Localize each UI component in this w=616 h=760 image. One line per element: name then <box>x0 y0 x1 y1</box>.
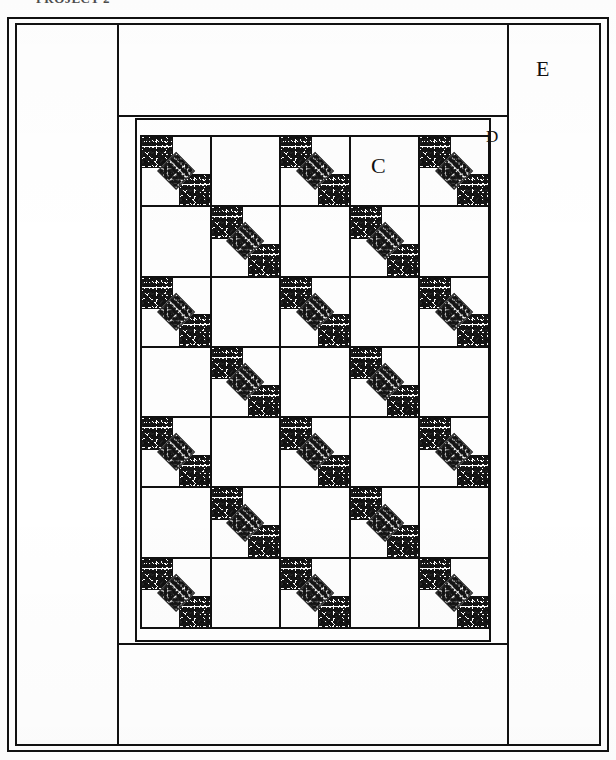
label-e: E <box>536 58 549 80</box>
plain-block <box>420 348 488 416</box>
plain-block <box>281 207 349 275</box>
pieced-block <box>281 559 349 627</box>
plain-block <box>420 488 488 556</box>
plain-block <box>212 418 280 486</box>
quilt-block-grid <box>140 135 490 629</box>
label-c: C <box>371 155 386 177</box>
pieced-block <box>281 418 349 486</box>
pieced-block <box>281 278 349 346</box>
figure-caption: PROJECT 2 <box>36 0 276 5</box>
pieced-block <box>281 137 349 205</box>
pieced-block <box>420 137 488 205</box>
pieced-block <box>351 348 419 416</box>
pieced-block <box>142 418 210 486</box>
plain-block <box>281 488 349 556</box>
pieced-block <box>351 488 419 556</box>
plain-block <box>142 348 210 416</box>
plain-block <box>281 348 349 416</box>
plain-block <box>212 559 280 627</box>
pieced-block <box>351 207 419 275</box>
plain-block <box>351 559 419 627</box>
quilt-diagram-page: PROJECT 2 E D C <box>0 0 616 760</box>
plain-block <box>351 278 419 346</box>
plain-block <box>142 207 210 275</box>
label-d: D <box>486 128 498 145</box>
pieced-block <box>142 559 210 627</box>
pieced-block <box>420 559 488 627</box>
plain-block <box>142 488 210 556</box>
pieced-block <box>212 488 280 556</box>
plain-block <box>212 137 280 205</box>
pieced-block <box>420 278 488 346</box>
pieced-block <box>212 207 280 275</box>
pieced-block <box>142 278 210 346</box>
plain-block <box>420 207 488 275</box>
plain-block <box>351 418 419 486</box>
pieced-block <box>212 348 280 416</box>
pieced-block <box>142 137 210 205</box>
plain-block <box>212 278 280 346</box>
pieced-block <box>420 418 488 486</box>
